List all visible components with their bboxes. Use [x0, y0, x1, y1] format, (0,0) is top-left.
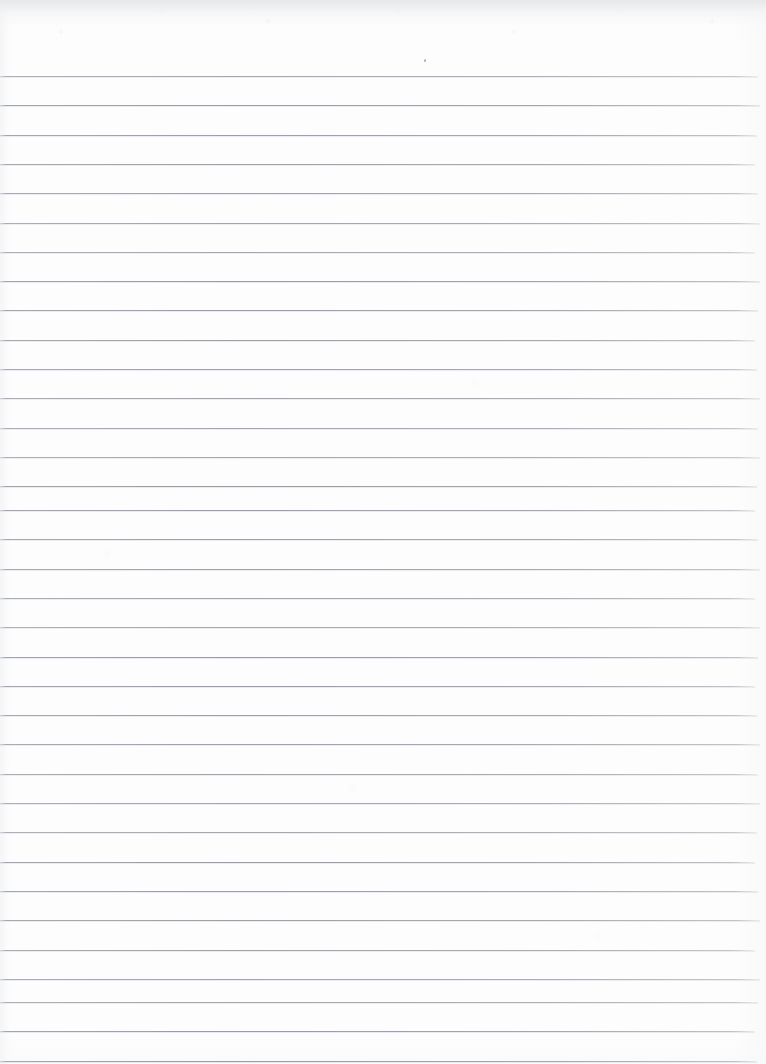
rule-line: [0, 135, 757, 136]
rule-line: [0, 164, 755, 165]
rule-line: [0, 627, 760, 628]
rule-line: [0, 657, 758, 658]
rule-line: [0, 310, 758, 311]
rule-line: [0, 598, 755, 599]
ruled-lines-layer: [0, 0, 766, 1064]
rule-line: [0, 369, 757, 370]
rule-line: [0, 76, 758, 77]
rule-line: [0, 105, 760, 106]
rule-line: [0, 686, 755, 687]
rule-line: [0, 1031, 755, 1032]
rule-line: [0, 744, 760, 745]
rule-line: [0, 510, 755, 511]
rule-line: [0, 569, 760, 570]
rule-line: [0, 539, 758, 540]
rule-line: [0, 398, 760, 399]
rule-line: [0, 193, 758, 194]
rule-line: [0, 252, 755, 253]
rule-line: [0, 223, 760, 224]
rule-line: [0, 457, 760, 458]
rule-line: [0, 891, 758, 892]
rule-line: [0, 920, 760, 921]
rule-line: [0, 774, 758, 775]
rule-line: [0, 340, 755, 341]
rule-line: [0, 486, 757, 487]
rule-line: [0, 832, 757, 833]
rule-line: [0, 803, 760, 804]
rule-line: [0, 281, 760, 282]
rule-line: [0, 1061, 757, 1062]
rule-line: [0, 1002, 758, 1003]
rule-line: [0, 428, 758, 429]
paper-sheet: [0, 0, 766, 1064]
rule-line: [0, 862, 755, 863]
rule-line: [0, 715, 757, 716]
rule-line: [0, 950, 755, 951]
rule-line: [0, 979, 760, 980]
